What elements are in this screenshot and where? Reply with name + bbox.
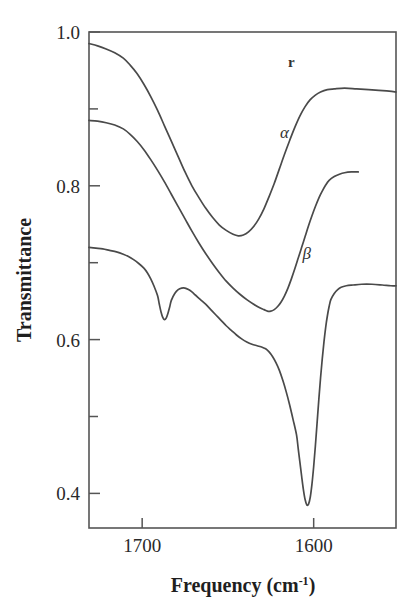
curve-label-gamma: r bbox=[288, 54, 295, 70]
spectrum-figure: 1.00.80.60.4 17001600 rαβ Transmittance … bbox=[0, 0, 418, 613]
y-tick-label: 0.4 bbox=[56, 483, 80, 504]
y-tick-label: 1.0 bbox=[56, 22, 80, 43]
x-tick-label: 1600 bbox=[295, 535, 333, 556]
x-axis-title-main: Frequency (cm bbox=[171, 574, 299, 597]
y-tick-label: 0.8 bbox=[56, 176, 80, 197]
x-axis-title: Frequency (cm-1) bbox=[171, 574, 316, 597]
y-axis-title: Transmittance bbox=[13, 218, 35, 342]
x-axis-title-superscript: -1 bbox=[299, 574, 309, 588]
y-tick-label: 0.6 bbox=[56, 330, 80, 351]
curve-label-alpha: α bbox=[280, 123, 290, 142]
curve-label-beta: β bbox=[302, 244, 312, 263]
x-tick-label: 1700 bbox=[123, 535, 161, 556]
x-axis-title-tail: ) bbox=[309, 574, 316, 597]
